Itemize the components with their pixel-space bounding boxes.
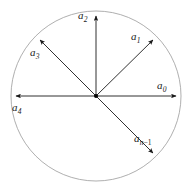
- vector-label-a2: a2: [78, 10, 87, 21]
- vector-label-a0-base: a: [157, 79, 163, 91]
- vector-label-a3: a3: [30, 47, 39, 58]
- vector-label-an-1-subscript: n−1: [140, 138, 152, 147]
- vector-arrow-a1: [96, 40, 153, 96]
- vector-arrow-a3: [40, 40, 96, 96]
- vector-label-a4-base: a: [12, 101, 18, 113]
- vector-label-a2-base: a: [78, 9, 84, 21]
- diagram-canvas: [0, 0, 192, 193]
- vector-label-a4-subscript: 4: [18, 107, 22, 116]
- origin-point: [94, 94, 98, 98]
- vector-label-a0: a0: [157, 80, 166, 91]
- vector-label-an-1-sub-op: −1: [144, 138, 152, 147]
- vector-label-a2-subscript: 2: [84, 15, 88, 24]
- vector-label-a1: a1: [131, 31, 140, 42]
- vector-label-a3-base: a: [30, 46, 36, 58]
- vector-label-a0-subscript: 0: [163, 85, 167, 94]
- vector-label-a4: a4: [12, 102, 21, 113]
- vector-label-an-1: an−1: [134, 133, 151, 144]
- vector-label-a3-subscript: 3: [36, 52, 40, 61]
- vector-label-a1-base: a: [131, 30, 137, 42]
- vector-label-a1-subscript: 1: [137, 36, 141, 45]
- vector-label-an-1-base: a: [134, 132, 140, 144]
- vector-diagram-figure: a0 a1 a2 a3 a4 an−1: [0, 0, 192, 193]
